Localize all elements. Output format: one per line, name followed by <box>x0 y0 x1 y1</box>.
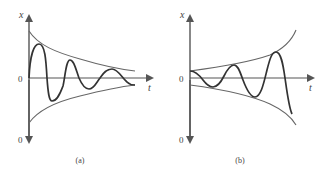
panel-b-caption: (b) <box>235 156 245 165</box>
panel-a-bottom-label: 0 <box>18 135 23 145</box>
panel-b-t-label: t <box>309 82 312 93</box>
panel-a-lower-envelope <box>29 85 135 123</box>
panel-b-bottom-label: 0 <box>179 135 184 145</box>
panel-a: x 0 t 0 (a) <box>18 9 151 165</box>
panel-b-lower-envelope <box>190 85 296 125</box>
panel-a-t-label: t <box>148 82 151 93</box>
panel-a-damped-curve <box>29 44 135 101</box>
panel-b-origin-label: 0 <box>179 74 184 84</box>
panel-b-growing-curve <box>190 52 292 114</box>
panel-a-origin-label: 0 <box>18 74 23 84</box>
panel-a-caption: (a) <box>76 156 85 165</box>
panel-b-upper-envelope <box>190 30 296 71</box>
panel-b: x 0 t 0 (b) <box>179 9 312 165</box>
panel-b-y-label: x <box>179 9 185 20</box>
figure-canvas: x 0 t 0 (a) x 0 t 0 (b) <box>0 0 325 173</box>
panel-a-y-label: x <box>18 9 24 20</box>
